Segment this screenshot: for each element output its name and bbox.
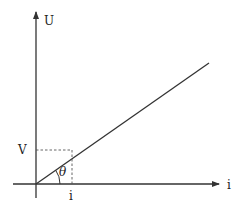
current-label: i [69,189,73,203]
vertical-axis-label: U [44,14,54,28]
voltage-label: V [17,143,27,157]
ui-graph: U i V i θ [0,0,245,210]
horizontal-axis-label: i [227,178,231,192]
angle-label: θ [59,165,67,179]
